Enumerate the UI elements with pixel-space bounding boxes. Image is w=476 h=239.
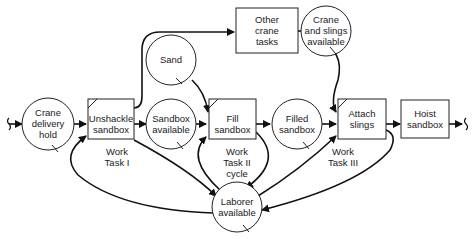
label-sandbox-available: Sandbox available (146, 113, 196, 135)
label-laborer-available: Laborer available (212, 196, 262, 218)
label-other-crane-tasks: Other crane tasks (236, 14, 298, 47)
label-sand: Sand (146, 54, 196, 65)
edge-sand-fill (192, 80, 208, 112)
label-filled-sandbox: Filled sandbox (272, 113, 322, 135)
label-fill-sandbox: Fill sandbox (209, 113, 256, 135)
label-unshackle-sandbox: Unshackle sandbox (86, 113, 136, 135)
output-squiggle-icon (465, 118, 468, 130)
label-attach-slings: Attach slings (338, 108, 386, 130)
cyclone-diagram: Crane delivery hold Unshackle sandbox Sa… (0, 0, 476, 239)
annotation-work-task-3: Work Task III (318, 146, 368, 168)
annotation-work-task-1: Work Task I (92, 146, 142, 168)
label-crane-delivery-hold: Crane delivery hold (24, 107, 72, 140)
annotation-work-task-2: Work Task II cycle (212, 146, 262, 179)
label-hoist-sandbox: Hoist sandbox (401, 108, 449, 130)
label-crane-and-slings-available: Crane and slings available (298, 14, 354, 47)
